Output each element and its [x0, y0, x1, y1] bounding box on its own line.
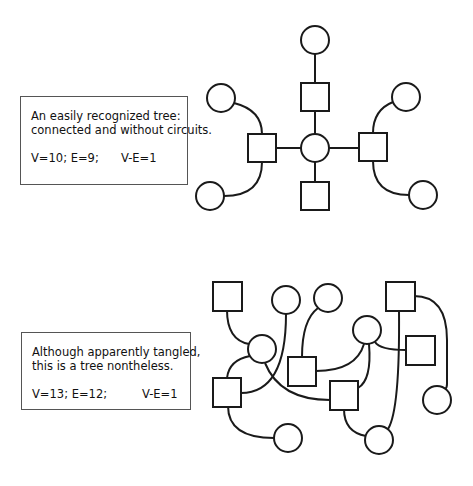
vertex-square: [301, 83, 329, 111]
vertex-circle: [274, 424, 302, 452]
edge: [227, 310, 249, 344]
edge: [358, 344, 370, 388]
vertex-circle: [301, 134, 329, 162]
edge: [373, 102, 393, 133]
vertex-square: [330, 381, 358, 410]
vertex-circle: [365, 426, 393, 454]
vertex-circle: [392, 83, 420, 111]
edge: [316, 344, 364, 371]
vertex-square: [406, 336, 435, 365]
vertex-circle: [353, 316, 381, 344]
edge: [302, 308, 318, 357]
vertex-circle: [423, 386, 451, 414]
vertex-circle: [196, 182, 224, 210]
vertex-square: [386, 282, 415, 311]
vertex-square: [213, 282, 242, 311]
vertex-circle: [314, 284, 342, 312]
vertex-square: [248, 134, 276, 162]
tree-graph-2: [213, 282, 451, 454]
vertex-square: [213, 378, 241, 407]
edge: [388, 310, 399, 429]
edge: [375, 342, 406, 350]
vertex-circle: [409, 181, 437, 209]
tree-graph-1: [196, 26, 437, 210]
vertex-square: [301, 182, 329, 210]
vertex-square: [288, 357, 316, 386]
vertex-square: [359, 133, 387, 161]
vertex-circle: [301, 26, 329, 54]
edge: [344, 409, 366, 436]
tree-diagrams: [0, 0, 473, 486]
edge: [228, 406, 274, 438]
edge: [234, 103, 262, 134]
vertex-circle: [248, 335, 276, 363]
vertex-circle: [272, 286, 300, 314]
edge: [373, 161, 409, 195]
edge: [224, 162, 262, 196]
edge: [227, 356, 250, 378]
vertex-circle: [207, 84, 235, 112]
